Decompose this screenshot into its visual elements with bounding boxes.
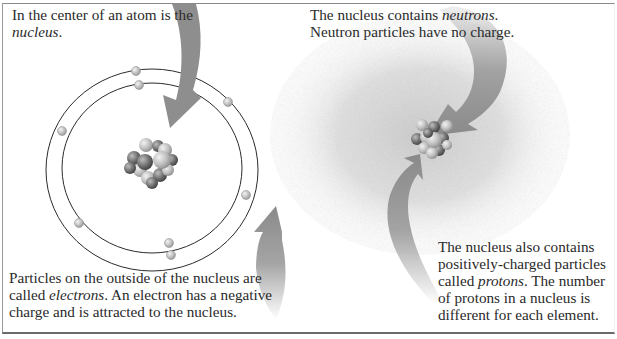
electron-icon xyxy=(132,67,141,76)
electron-icon xyxy=(224,98,233,107)
electron-icon xyxy=(165,239,174,248)
nucleus-left-icon xyxy=(124,138,178,189)
inner-orbit xyxy=(62,83,242,253)
caption-neutrons: The nucleus contains neutrons. Neutron p… xyxy=(310,6,540,40)
electron-icon xyxy=(135,81,144,90)
electron-icon xyxy=(58,127,67,136)
caption-electrons: Particles on the outside of the nucleus … xyxy=(9,269,279,320)
caption-protons: The nucleus also contains positively-cha… xyxy=(438,238,616,323)
electron-icon xyxy=(167,251,176,260)
caption-nucleus: In the center of an atom is the nucleus. xyxy=(12,6,222,40)
electron-icon xyxy=(75,219,84,228)
electron-icon xyxy=(242,191,251,200)
